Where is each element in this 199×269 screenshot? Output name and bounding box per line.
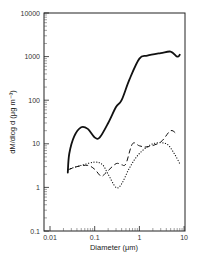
x-tick-label: 0.01 — [43, 234, 57, 241]
data-series — [68, 51, 180, 187]
plot-frame — [44, 13, 185, 231]
y-tick-label: 0.1 — [30, 228, 40, 235]
x-axis-ticks: 0.010.1110 — [43, 226, 188, 241]
y-tick-label: 10 — [32, 140, 40, 147]
series-dashed-line — [68, 131, 177, 177]
series-solid-line — [68, 51, 180, 172]
x-tick-label: 0.1 — [90, 234, 100, 241]
y-tick-label: 1000 — [24, 53, 40, 60]
figure-caption-clipped — [0, 262, 199, 269]
mass-size-distribution-chart: 0.1110100100010000 0.010.1110 Diameter (… — [0, 0, 199, 269]
y-tick-label: 1 — [36, 184, 40, 191]
y-tick-label: 100 — [28, 97, 40, 104]
y-tick-label: 10000 — [21, 10, 41, 17]
y-axis-title: dM/dlog d (μg m⁻³) — [8, 90, 17, 154]
x-tick-label: 1 — [137, 234, 141, 241]
y-axis-ticks: 0.1110100100010000 — [21, 10, 49, 235]
x-axis-title: Diameter (μm) — [90, 243, 139, 252]
x-tick-label: 10 — [180, 234, 188, 241]
